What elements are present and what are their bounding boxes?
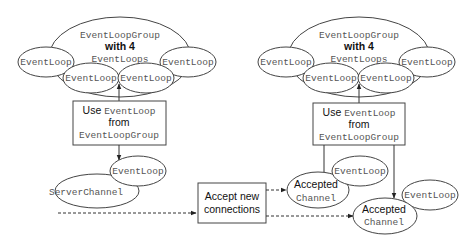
right-eventloop-2: EventLoop	[303, 63, 359, 93]
server-eventloop: EventLoop	[110, 156, 166, 186]
server-eventloop-label: EventLoop	[112, 166, 164, 177]
right-box-line-3: EventLoopGroup	[319, 132, 399, 143]
server-channel-label: ServerChannel	[49, 187, 123, 198]
accept-connections-box: Accept new connections	[198, 183, 266, 223]
right-use-eventloop-box: Use EventLoop from EventLoopGroup	[313, 103, 405, 145]
left-eventloop-2: EventLoop	[63, 63, 119, 93]
right-box-line-2: from	[349, 118, 370, 130]
right-group-label-2: with 4	[343, 40, 374, 52]
accept-label-1: Accept new	[205, 190, 260, 202]
left-panel: EventLoopGroup with 4 EventLoops EventLo…	[18, 17, 216, 208]
accepted-channel-2-eventloop-label: EventLoop	[404, 190, 456, 201]
accepted-channel-2: Accepted Channel	[353, 198, 417, 234]
accepted-channel-2-label-2: Channel	[364, 217, 404, 228]
right-eventloop-2-label: EventLoop	[305, 73, 357, 84]
right-panel: EventLoopGroup with 4 EventLoops EventLo…	[258, 17, 458, 234]
right-eventloop-1-label: EventLoop	[260, 57, 312, 68]
left-group-label-2: with 4	[104, 40, 135, 52]
right-eventloop-3-label: EventLoop	[360, 73, 412, 84]
left-eventloop-1-label: EventLoop	[20, 57, 72, 68]
accepted-channel-2-label-1: Accepted	[362, 203, 406, 215]
left-eventloop-2-label: EventLoop	[65, 73, 117, 84]
right-eventloop-4-label: EventLoop	[401, 57, 453, 68]
accepted-channel-1-label-1: Accepted	[294, 178, 338, 190]
right-box-use: Use	[323, 106, 345, 118]
accepted-channel-1-label-2: Channel	[296, 193, 336, 204]
left-box-line-2: from	[109, 116, 130, 128]
left-eventloop-3-label: EventLoop	[120, 73, 172, 84]
accepted-channel-1-eventloop-label: EventLoop	[334, 166, 386, 177]
accepted-channel-1-eventloop: EventLoop	[332, 156, 388, 186]
left-box-line-3: EventLoopGroup	[79, 130, 159, 141]
left-box-use: Use	[83, 104, 105, 116]
left-use-eventloop-box: Use EventLoop from EventLoopGroup	[73, 101, 166, 145]
right-eventloop-3: EventLoop	[358, 63, 414, 93]
left-eventloop-3: EventLoop	[118, 63, 174, 93]
accept-label-2: connections	[204, 203, 260, 215]
left-eventloop-4-label: EventLoop	[162, 57, 214, 68]
